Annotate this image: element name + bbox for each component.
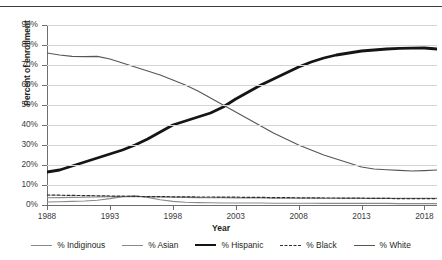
- y-tick-mark: [42, 165, 47, 166]
- x-axis-line: [47, 205, 437, 206]
- y-tick-label: 10%: [4, 180, 38, 188]
- gridline: [47, 145, 437, 146]
- x-axis-label: Year: [0, 223, 442, 233]
- x-tick-mark: [173, 205, 174, 210]
- x-tick-mark: [362, 205, 363, 210]
- y-axis-tick-labels: 0%10%20%30%40%50%60%70%80%90%: [0, 0, 38, 260]
- y-tick-mark: [42, 45, 47, 46]
- x-tick-label: 2018: [402, 211, 442, 221]
- legend-swatch-icon: [122, 245, 143, 246]
- y-tick-mark: [42, 25, 47, 26]
- gridline: [47, 165, 437, 166]
- series-line: [47, 53, 437, 171]
- legend-swatch-icon: [354, 245, 375, 246]
- y-tick-label: 70%: [4, 60, 38, 68]
- plot-area: [47, 25, 437, 205]
- gridline: [47, 45, 437, 46]
- gridline: [47, 85, 437, 86]
- x-tick-mark: [236, 205, 237, 210]
- gridline: [47, 185, 437, 186]
- legend-swatch-icon: [280, 245, 301, 246]
- y-tick-label: 60%: [4, 80, 38, 88]
- legend-item[interactable]: % White: [354, 240, 411, 250]
- legend-item[interactable]: % Indiginous: [31, 240, 105, 250]
- x-tick-mark: [110, 205, 111, 210]
- y-tick-label: 40%: [4, 120, 38, 128]
- y-tick-label: 90%: [4, 20, 38, 28]
- y-tick-mark: [42, 125, 47, 126]
- legend-label: % Black: [306, 240, 336, 250]
- y-tick-mark: [42, 185, 47, 186]
- legend-label: % Indiginous: [57, 240, 105, 250]
- x-tick-mark: [47, 205, 48, 210]
- gridline: [47, 25, 437, 26]
- y-tick-mark: [42, 65, 47, 66]
- legend-label: % White: [380, 240, 411, 250]
- legend-label: % Hispanic: [221, 240, 263, 250]
- gridline: [47, 65, 437, 66]
- x-tick-mark: [299, 205, 300, 210]
- x-tick-label: 1998: [151, 211, 195, 221]
- x-tick-label: 1988: [25, 211, 69, 221]
- series-lines: [47, 25, 437, 205]
- x-tick-label: 2008: [277, 211, 321, 221]
- x-tick-label: 2003: [214, 211, 258, 221]
- x-tick-mark: [424, 205, 425, 210]
- legend-item[interactable]: % Hispanic: [195, 240, 263, 250]
- x-tick-label: 2013: [340, 211, 384, 221]
- y-tick-label: 0%: [4, 200, 38, 208]
- y-tick-label: 30%: [4, 140, 38, 148]
- y-tick-mark: [42, 85, 47, 86]
- chart-legend: % Indiginous% Asian% Hispanic% Black% Wh…: [0, 240, 442, 250]
- legend-swatch-icon: [31, 245, 52, 246]
- gridline: [47, 105, 437, 106]
- y-tick-mark: [42, 145, 47, 146]
- y-tick-mark: [42, 105, 47, 106]
- legend-item[interactable]: % Asian: [122, 240, 178, 250]
- series-line: [47, 48, 437, 172]
- legend-label: % Asian: [148, 240, 178, 250]
- title-divider: [0, 6, 442, 7]
- y-tick-label: 50%: [4, 100, 38, 108]
- x-tick-label: 1993: [88, 211, 132, 221]
- y-tick-label: 20%: [4, 160, 38, 168]
- y-tick-label: 80%: [4, 40, 38, 48]
- gridline: [47, 125, 437, 126]
- legend-item[interactable]: % Black: [280, 240, 336, 250]
- legend-swatch-icon: [195, 244, 216, 246]
- chart-container: Percent of enrollment 0%10%20%30%40%50%6…: [0, 0, 442, 260]
